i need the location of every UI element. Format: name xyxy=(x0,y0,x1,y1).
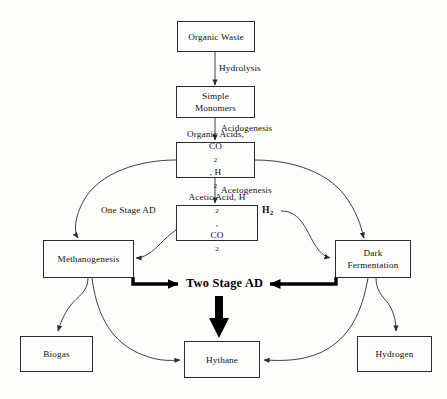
edge-label-one-stage-ad: One Stage AD xyxy=(101,205,156,215)
node-dark-fermentation-line1: Dark xyxy=(364,247,383,259)
node-simple-monomers-line2: Monomers xyxy=(195,102,236,114)
edge-darkfermentation-to-twostage xyxy=(270,277,336,284)
process-flow-diagram: Organic Waste Simple Monomers Organic Ac… xyxy=(0,0,447,399)
node-organic-waste-label: Organic Waste xyxy=(188,31,244,43)
node-hythane-label: Hythane xyxy=(206,354,238,366)
node-organic-acids[interactable]: Organic Acids, CO2, H2 xyxy=(176,142,255,178)
edge-label-h2: H2 xyxy=(262,204,273,217)
edge-acids-to-darkfermentation xyxy=(255,160,364,238)
node-hydrogen-label: Hydrogen xyxy=(376,348,414,360)
edge-darkfermentation-to-hydrogen xyxy=(376,278,396,331)
edge-methanogenesis-to-biogas xyxy=(58,278,88,331)
node-acetic-acid-line2: CO2 xyxy=(210,229,223,255)
edge-methanogenesis-to-twostage xyxy=(133,277,178,284)
edge-label-acetogenesis: Acetogenesis xyxy=(221,185,272,195)
node-simple-monomers-line1: Simple xyxy=(202,90,229,102)
node-hythane[interactable]: Hythane xyxy=(184,341,260,378)
edge-h2-to-darkfermentation xyxy=(281,211,330,258)
node-organic-waste[interactable]: Organic Waste xyxy=(177,21,255,52)
node-biogas[interactable]: Biogas xyxy=(20,336,93,372)
node-acetic-acid-line1: Acetic Acid, H2, xyxy=(189,191,246,229)
node-methanogenesis[interactable]: Methanogenesis xyxy=(43,240,134,278)
edge-label-hydrolysis: Hydrolysis xyxy=(219,63,261,73)
node-simple-monomers[interactable]: Simple Monomers xyxy=(176,86,255,118)
edge-methanogenesis-to-hythane xyxy=(92,278,180,360)
node-hydrogen[interactable]: Hydrogen xyxy=(357,336,432,372)
edge-label-acidogenesis: Acidogenesis xyxy=(221,123,272,133)
node-acetic-acid[interactable]: Acetic Acid, H2, CO2 xyxy=(176,205,258,241)
edge-acids-to-methanogenesis xyxy=(76,160,176,238)
edge-twostage-to-hythane xyxy=(209,296,229,338)
node-biogas-label: Biogas xyxy=(43,348,69,360)
node-methanogenesis-label: Methanogenesis xyxy=(58,253,120,265)
node-dark-fermentation-line2: Fermentation xyxy=(348,259,399,271)
edge-aceticacid-to-methanogenesis xyxy=(136,230,176,258)
callout-two-stage-ad: Two Stage AD xyxy=(186,276,263,291)
node-dark-fermentation[interactable]: Dark Fermentation xyxy=(335,240,411,278)
edge-darkfermentation-to-hythane xyxy=(264,278,368,360)
